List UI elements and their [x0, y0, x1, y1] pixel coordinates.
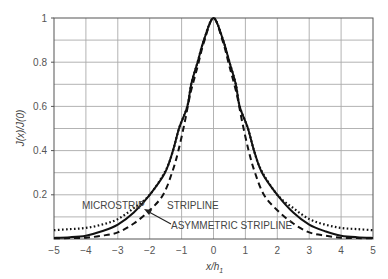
- x-tick-label: 1: [243, 245, 249, 256]
- y-tick-label: 0.6: [33, 101, 47, 112]
- label-asymmetric-stripline: ASYMMETRIC STRIPLINE: [171, 220, 292, 231]
- current-distribution-chart: −5−4−3−2−10123450.20.40.60.81 MICROSTRIP…: [0, 0, 388, 279]
- x-tick-label: −3: [112, 245, 124, 256]
- x-tick-label: −1: [176, 245, 188, 256]
- x-tick-label: −5: [48, 245, 60, 256]
- x-tick-label: −4: [80, 245, 92, 256]
- y-axis-label: J(x)/J(0): [15, 110, 26, 148]
- x-tick-label: 2: [275, 245, 281, 256]
- x-tick-label: 4: [338, 245, 344, 256]
- y-tick-label: 1: [41, 13, 47, 24]
- x-tick-label: 5: [370, 245, 376, 256]
- x-tick-label: 3: [306, 245, 312, 256]
- y-tick-label: 0.8: [33, 57, 47, 68]
- x-tick-label: 0: [211, 245, 217, 256]
- label-stripline: STRIPLINE: [167, 200, 219, 211]
- x-axis-label: x/h1: [205, 261, 223, 274]
- label-microstrip: MICROSTRIP: [82, 200, 145, 211]
- x-tick-label: −2: [144, 245, 156, 256]
- y-tick-label: 0.4: [33, 145, 47, 156]
- y-tick-label: 0.2: [33, 189, 47, 200]
